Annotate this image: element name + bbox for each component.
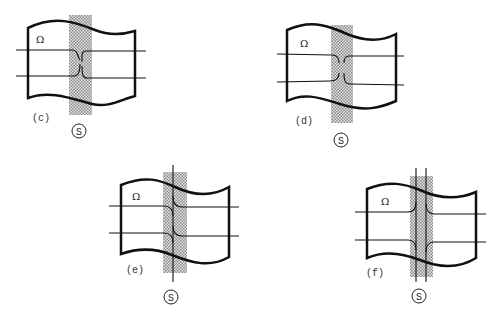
panel-e: Ω (e) S: [109, 165, 239, 304]
shaded-strip: [331, 25, 353, 123]
figure-canvas: Ω (c) S Ω (d) S Ω (e) S Ω (f) S: [0, 0, 503, 318]
panel-label: (c): [32, 113, 50, 124]
strip-label: S: [338, 136, 344, 147]
region-omega-label: Ω: [300, 38, 308, 49]
strip-label: S: [76, 127, 82, 138]
region-omega-label: Ω: [381, 196, 389, 207]
panel-c: Ω (c) S: [16, 15, 146, 138]
panel-label: (f): [366, 268, 384, 279]
region-omega-label: Ω: [36, 34, 44, 45]
strip-label: S: [168, 293, 174, 304]
panel-d: Ω (d) S: [277, 24, 404, 147]
panel-f: Ω (f) S: [355, 168, 486, 303]
panel-label: (e): [126, 265, 144, 276]
strip-label: S: [416, 292, 422, 303]
panel-label: (d): [295, 116, 313, 127]
region-omega-label: Ω: [132, 191, 140, 202]
